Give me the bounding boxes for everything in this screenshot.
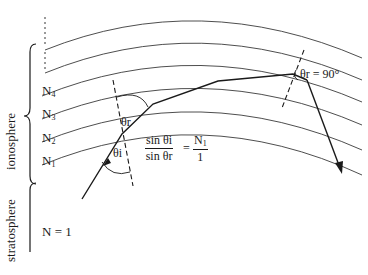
layer-label-n1: N1 (42, 154, 55, 169)
critical-angle-label: θr = 90° (300, 68, 339, 80)
ray-exit-arrowhead (335, 161, 343, 174)
lhs-numerator: sin θi (145, 134, 173, 149)
equals-sign: = (183, 141, 190, 156)
layer-label-n3: N3 (42, 107, 55, 122)
ionosphere-brace (24, 44, 36, 184)
stratosphere-label: stratosphere (4, 199, 17, 262)
refraction-angle-label: θr (121, 116, 131, 128)
layer-arc-1 (45, 21, 362, 58)
layer-label-n4: N4 (42, 84, 55, 99)
layer-label-n2: N2 (42, 131, 55, 146)
snell-fraction-rhs: N1 1 (193, 134, 208, 164)
incidence-angle-label: θi (113, 147, 122, 159)
layer-arc-4 (42, 88, 362, 125)
lhs-denominator: sin θr (145, 149, 173, 163)
dotted-continuation (44, 17, 46, 69)
refraction-angle-arc (117, 95, 148, 107)
stratosphere-brace (30, 183, 36, 252)
rhs-numerator: N1 (193, 134, 208, 150)
ionosphere-label: ionosphere (4, 113, 17, 170)
snell-fraction-lhs: sin θi sin θr (145, 134, 173, 162)
rhs-denominator: 1 (193, 150, 208, 164)
base-medium-label: N = 1 (42, 225, 72, 238)
